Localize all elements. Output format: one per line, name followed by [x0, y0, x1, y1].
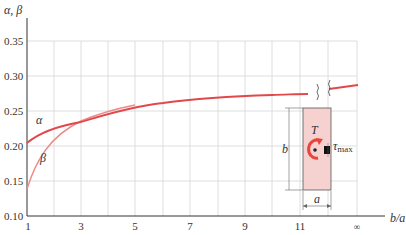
svg-text:7: 7	[187, 220, 193, 232]
dim-b-label: b	[282, 142, 288, 156]
break-mark-right	[329, 80, 331, 96]
svg-text:1: 1	[25, 220, 31, 232]
cross-section-diagram: b a T τmax	[282, 108, 353, 210]
beta-label: β	[39, 151, 46, 165]
svg-text:9: 9	[242, 220, 248, 232]
x-tick-labels: 1 3 5 7 9 11 ∞	[25, 220, 360, 232]
svg-text:0.30: 0.30	[4, 70, 24, 82]
y-axis-label: α, β	[4, 3, 22, 17]
svg-text:0.35: 0.35	[4, 35, 24, 47]
svg-text:5: 5	[132, 220, 138, 232]
svg-text:3: 3	[78, 220, 84, 232]
alpha-curve-tail	[329, 85, 358, 89]
dim-a-label: a	[314, 192, 320, 206]
break-mark-left	[317, 84, 319, 100]
svg-text:0.25: 0.25	[4, 105, 24, 117]
tau-label: τmax	[333, 139, 353, 154]
x-axis-label: b/a	[390, 211, 405, 225]
svg-text:11: 11	[295, 220, 306, 232]
alpha-curve	[27, 94, 308, 143]
y-tick-labels: 0.35 0.30 0.25 0.20 0.15 0.10	[4, 35, 24, 222]
svg-text:∞: ∞	[354, 222, 360, 232]
alpha-label: α	[36, 113, 43, 127]
svg-text:0.20: 0.20	[4, 140, 24, 152]
svg-text:0.15: 0.15	[4, 175, 24, 187]
chart: α, β b/a 0.35 0.30 0.25 0.20 0.15 0.10 1…	[0, 0, 406, 235]
svg-text:0.10: 0.10	[4, 210, 24, 222]
